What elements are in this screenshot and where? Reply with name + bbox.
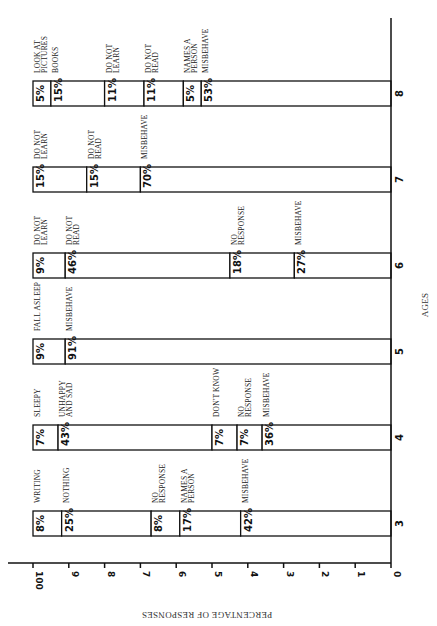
segment-label: FALL ASLEEP — [33, 282, 42, 331]
segment-value: 11% — [146, 78, 157, 102]
segment-label: DO NOTLEARN — [33, 129, 49, 159]
percentage-ticks: 1009876543210 — [33, 563, 402, 590]
segment-value: 5% — [35, 85, 46, 102]
segment-value: 15% — [89, 164, 100, 188]
tick-label: 9 — [70, 571, 80, 577]
segment-value: 5% — [185, 85, 196, 102]
segment-value: 36% — [264, 422, 275, 446]
segment-label: DO NOTLEARN — [105, 43, 121, 73]
segment-value: 8% — [153, 515, 164, 532]
segment-label: NAMES APERSON — [180, 468, 196, 503]
age-label: 3 — [394, 520, 405, 527]
segment-label: MISBEHAVE — [294, 200, 303, 245]
segment-label: NORESPONSE — [237, 378, 253, 417]
segment-label: NORESPONSE — [230, 206, 246, 245]
segment-value: 9% — [35, 343, 46, 360]
age-label: 5 — [394, 348, 405, 355]
tick-label: 7 — [141, 571, 151, 577]
tick-label: 2 — [320, 571, 330, 577]
segment-value: 46% — [67, 250, 78, 274]
bar-age-8: 5%LOOK ATPICTURES15%BOOKS11%DO NOTLEARN1… — [33, 28, 391, 106]
segment-value: 53% — [203, 78, 214, 102]
segment-label: NOTHING — [62, 467, 71, 503]
age-label: 7 — [394, 176, 405, 183]
bar-segment — [65, 253, 230, 278]
segment-label: NAMES APERSON — [183, 38, 199, 73]
bar-age-3: 8%WRITING25%NOTHING8%NORESPONSE17%NAMES … — [33, 458, 391, 536]
segment-label: SLEEPY — [33, 388, 42, 417]
bar-age-5: 9%FALL ASLEEP91%MISBEHAVE — [33, 282, 391, 364]
segment-value: 15% — [53, 78, 64, 102]
bar-age-4: 7%SLEEPY43%UNHAPPYAND SAD7%DON'T KNOW7%N… — [33, 367, 391, 450]
tick-label: 3 — [285, 571, 295, 577]
segment-value: 15% — [35, 164, 46, 188]
tick-label: 6 — [177, 571, 187, 577]
segment-value: 17% — [182, 508, 193, 532]
segment-label: DO NOTLEARN — [33, 215, 49, 245]
segment-value: 7% — [239, 429, 250, 446]
bar-age-6: 9%DO NOTLEARN46%DO NOTREAD18%NORESPONSE2… — [33, 200, 391, 278]
tick-label: 8 — [106, 571, 116, 577]
segment-value: 8% — [35, 515, 46, 532]
bar-segment — [294, 253, 391, 278]
segment-value: 18% — [232, 250, 243, 274]
bar-segment — [201, 81, 391, 106]
tick-label: 1 — [356, 571, 366, 577]
y-axis-title: PERCENTAGE OF RESPONSES — [142, 610, 273, 620]
tick-label: 4 — [249, 571, 259, 577]
segment-label: DO NOTREAD — [65, 215, 81, 245]
segment-label: DON'T KNOW — [212, 367, 221, 417]
segment-label: DO NOTREAD — [144, 43, 160, 73]
age-label: 4 — [394, 434, 405, 441]
segment-label: WRITING — [33, 469, 42, 503]
bar-segment — [262, 425, 391, 450]
bar-segment — [241, 511, 391, 536]
segment-value: 25% — [64, 508, 75, 532]
segment-value: 11% — [107, 78, 118, 102]
bar-segment — [58, 425, 212, 450]
segment-value: 91% — [67, 336, 78, 360]
x-axis-title: AGES — [420, 293, 430, 318]
stacked-bar-chart: 8%WRITING25%NOTHING8%NORESPONSE17%NAMES … — [0, 0, 437, 626]
segment-value: 70% — [142, 164, 153, 188]
segment-label: MISBEHAVE — [201, 28, 210, 73]
segment-label: DO NOTREAD — [87, 129, 103, 159]
segment-label: BOOKS — [51, 47, 60, 73]
segment-value: 7% — [35, 429, 46, 446]
segment-value: 42% — [243, 508, 254, 532]
segment-label: MISBEHAVE — [65, 286, 74, 331]
segment-label: LOOK ATPICTURES — [33, 36, 49, 73]
segment-label: MISBEHAVE — [140, 114, 149, 159]
age-label: 6 — [394, 262, 405, 269]
tick-label: 0 — [392, 571, 402, 577]
age-label: 8 — [394, 90, 405, 97]
segment-label: UNHAPPYAND SAD — [58, 380, 74, 417]
bar-segment — [62, 511, 152, 536]
segment-label: MISBEHAVE — [262, 372, 271, 417]
segment-value: 43% — [60, 422, 71, 446]
segment-label: MISBEHAVE — [241, 458, 250, 503]
segment-value: 7% — [214, 429, 225, 446]
tick-label: 100 — [34, 571, 44, 590]
bars-group: 8%WRITING25%NOTHING8%NORESPONSE17%NAMES … — [33, 28, 391, 536]
segment-value: 9% — [35, 257, 46, 274]
tick-label: 5 — [213, 571, 223, 577]
bar-segment — [140, 167, 391, 192]
age-labels: 345678 — [394, 90, 405, 527]
segment-label: NORESPONSE — [151, 464, 167, 503]
bar-segment — [65, 339, 391, 364]
bar-age-7: 15%DO NOTLEARN15%DO NOTREAD70%MISBEHAVE — [33, 114, 391, 192]
segment-value: 27% — [296, 250, 307, 274]
